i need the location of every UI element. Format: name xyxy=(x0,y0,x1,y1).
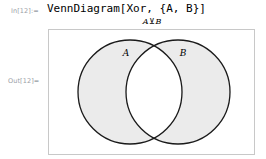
input-code-line[interactable]: VennDiagram[Xor, {A, B}] xyxy=(47,2,206,16)
venn-title-right-operand: B xyxy=(155,17,161,26)
venn-label-b: B xyxy=(179,48,187,58)
output-cell-label: Out[12]= xyxy=(8,77,39,85)
venn-diagram-svg: A B xyxy=(48,29,255,155)
output-graphic[interactable]: A⊻B xyxy=(47,17,257,157)
notebook-cell-group: In[12]:= VennDiagram[Xor, {A, B}] Out[12… xyxy=(0,0,266,159)
input-cell-label: In[12]:= xyxy=(11,7,39,15)
venn-title: A⊻B xyxy=(47,17,257,27)
venn-frame: A B xyxy=(48,29,255,155)
venn-label-a: A xyxy=(122,48,130,58)
